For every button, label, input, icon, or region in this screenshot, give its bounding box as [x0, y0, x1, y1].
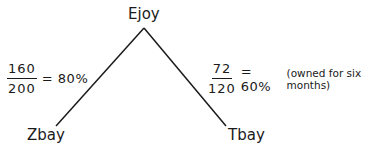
fraction-stack: 160 200: [7, 61, 37, 96]
fraction-stack: 72 120: [208, 61, 236, 96]
left-edge-fraction: 160 200 = 80%: [7, 61, 88, 96]
fraction-result: = 60%: [241, 64, 280, 94]
fraction-numerator: 72: [212, 61, 233, 79]
right-edge-fraction: 72 120 = 60% (owned for six months): [208, 61, 388, 96]
fraction-result: = 80%: [42, 71, 88, 86]
fraction-note: (owned for six months): [287, 67, 388, 91]
fraction-denominator: 120: [208, 79, 236, 96]
node-ejoy: Ejoy: [128, 7, 160, 22]
node-tbay: Tbay: [228, 128, 265, 143]
node-zbay: Zbay: [27, 128, 65, 143]
fraction-denominator: 200: [8, 79, 36, 96]
fraction-numerator: 160: [7, 61, 37, 79]
